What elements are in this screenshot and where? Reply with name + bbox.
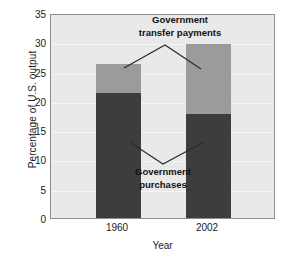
bar-group-2002[interactable] — [186, 44, 231, 218]
y-tick-label-35: 35 — [26, 9, 46, 20]
transfers-annotation-line2: transfer payments — [100, 27, 260, 40]
transfers-annotation-line1: Government — [100, 14, 260, 27]
gridline-20 — [51, 103, 274, 104]
y-tick-label-20: 20 — [26, 96, 46, 107]
chart-figure: Percentage of U.S. output 35 30 25 20 15… — [0, 0, 283, 261]
y-tick-label-5: 5 — [26, 184, 46, 195]
gridline-25 — [51, 74, 274, 75]
bar-segment-transfers-1960[interactable] — [96, 64, 141, 93]
y-axis-tick-labels: 35 30 25 20 15 10 5 0 — [26, 0, 46, 261]
gridline-10 — [51, 161, 274, 162]
x-axis-title: Year — [50, 240, 275, 251]
bar-group-1960[interactable] — [96, 64, 141, 218]
gridline-15 — [51, 132, 274, 133]
x-tick-label-2002: 2002 — [177, 222, 237, 233]
gridline-30 — [51, 44, 274, 45]
purchases-annotation-line2: purchases — [103, 179, 223, 192]
bar-segment-transfers-2002[interactable] — [186, 44, 231, 114]
y-tick-label-0: 0 — [26, 214, 46, 225]
y-tick-label-10: 10 — [26, 155, 46, 166]
bar-segment-purchases-1960[interactable] — [96, 93, 141, 218]
y-tick-label-25: 25 — [26, 67, 46, 78]
y-tick-label-30: 30 — [26, 38, 46, 49]
y-tick-label-15: 15 — [26, 126, 46, 137]
x-tick-label-1960: 1960 — [87, 222, 147, 233]
purchases-annotation-line1: Government — [103, 166, 223, 179]
transfers-annotation: Government transfer payments — [100, 14, 260, 39]
purchases-annotation: Government purchases — [103, 166, 223, 191]
